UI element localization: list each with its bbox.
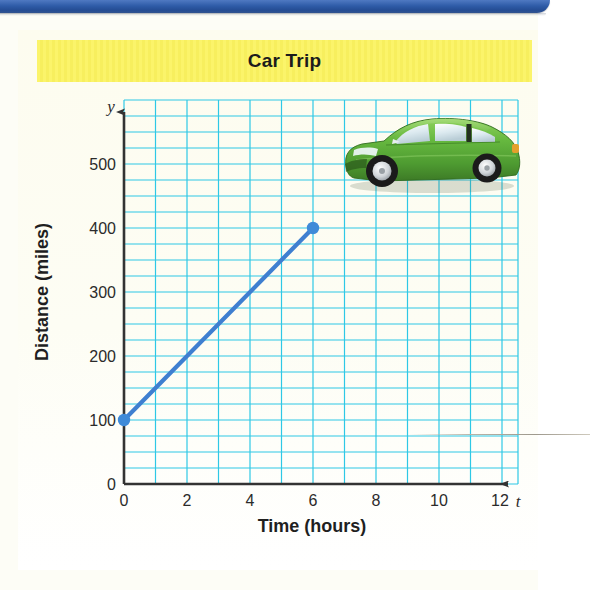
y-tick-labels: 0 100 200 300 400 500: [89, 156, 116, 493]
x-tick-label-6: 6: [309, 492, 318, 509]
car-front-wheel: [366, 155, 398, 187]
scan-artifact-line: [408, 434, 590, 435]
x-tick-label-10: 10: [430, 492, 448, 509]
car-taillight: [512, 144, 519, 153]
car-b-pillar: [467, 124, 472, 142]
x-tick-labels: 0 2 4 6 8 10 12: [120, 492, 509, 509]
x-tick-label-0: 0: [120, 492, 129, 509]
y-tick-label-100: 100: [89, 412, 116, 429]
chart-svg: 0 100 200 300 400 500 0 2 4 6 8 10 12 y …: [0, 0, 590, 590]
y-tick-label-400: 400: [89, 220, 116, 237]
car-front-window: [435, 124, 466, 141]
x-axis-variable-label: t: [516, 492, 522, 511]
x-tick-label-8: 8: [372, 492, 381, 509]
car-photo: [340, 104, 525, 196]
data-point-start: [118, 414, 130, 426]
chart-plot-area: 0 100 200 300 400 500 0 2 4 6 8 10 12 y …: [0, 0, 590, 590]
y-tick-label-200: 200: [89, 348, 116, 365]
y-tick-label-300: 300: [89, 284, 116, 301]
car-rear-wheel: [473, 154, 502, 183]
y-tick-label-500: 500: [89, 156, 116, 173]
x-tick-label-4: 4: [246, 492, 255, 509]
page-root: Car Trip: [0, 0, 590, 590]
y-tick-label-0: 0: [107, 476, 116, 493]
y-axis-title: Distance (miles): [32, 223, 52, 361]
car-illustration: [340, 104, 525, 196]
x-tick-label-12: 12: [491, 492, 509, 509]
y-axis-variable-label: y: [105, 97, 115, 116]
x-tick-label-2: 2: [183, 492, 192, 509]
x-axis-title: Time (hours): [258, 516, 367, 536]
data-point-end: [307, 222, 319, 234]
